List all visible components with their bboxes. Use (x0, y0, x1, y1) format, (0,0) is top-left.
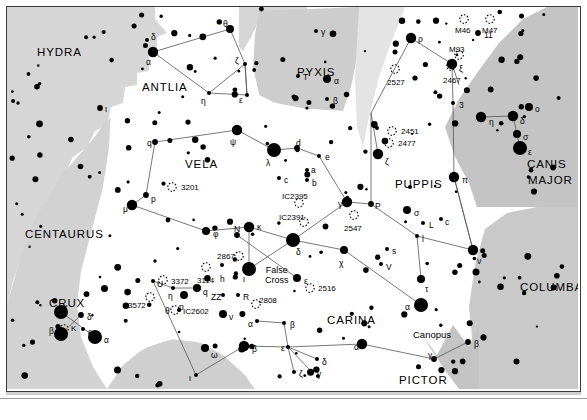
star-marker (148, 47, 158, 57)
star-marker (439, 217, 443, 221)
field-star (160, 15, 163, 18)
field-star (393, 41, 399, 47)
star-label: ζ (385, 158, 389, 167)
field-star (280, 57, 285, 62)
star-marker (508, 111, 518, 121)
star-marker (475, 30, 481, 36)
field-star (393, 49, 398, 54)
star-marker (465, 339, 471, 345)
field-star (147, 303, 152, 308)
star-label: ξ (459, 65, 463, 74)
field-star (98, 171, 101, 174)
star-marker (385, 247, 389, 251)
field-star (68, 137, 74, 143)
field-star (101, 285, 108, 292)
star-marker (417, 275, 425, 283)
constellation-label: PYXIS (297, 67, 335, 79)
field-star (488, 87, 494, 93)
star-label: ν (477, 257, 481, 266)
star-label: V (386, 263, 392, 272)
field-star (295, 352, 298, 355)
star-marker (243, 62, 247, 66)
field-star (176, 247, 179, 250)
deepsky-label: IC2391 (279, 214, 305, 222)
columba-shade (469, 207, 578, 389)
star-label: α (248, 320, 253, 329)
field-star (232, 91, 238, 97)
star-label: φ (213, 230, 219, 239)
field-star (519, 13, 524, 18)
field-star (457, 263, 462, 268)
field-star (482, 253, 487, 258)
star-marker (220, 263, 224, 267)
star-marker (406, 33, 416, 43)
star-label: θ (165, 307, 170, 316)
constellation-label: VELA (185, 159, 218, 171)
field-star (135, 374, 139, 378)
deepsky-label: 3572 (128, 302, 146, 310)
field-star (39, 304, 42, 307)
star-marker (513, 141, 527, 155)
star-marker (476, 112, 486, 122)
field-star (27, 135, 31, 139)
field-star (428, 123, 431, 126)
field-star (194, 70, 197, 73)
field-star (433, 90, 437, 94)
star-marker (193, 284, 201, 292)
star-marker (194, 373, 198, 377)
field-star (114, 264, 121, 271)
field-star (38, 82, 42, 86)
star-label: q (147, 139, 152, 148)
constellation-label: CARINA (327, 315, 376, 327)
deepsky-label: 2547 (344, 225, 362, 233)
field-star (102, 30, 106, 34)
deepsky-marker (391, 65, 399, 73)
star-marker (325, 97, 329, 101)
star-label: μ (123, 205, 128, 214)
star-label: d (296, 139, 301, 148)
field-star (309, 255, 312, 258)
field-star (141, 68, 144, 71)
constellation-label: CENTAURUS (25, 229, 104, 241)
deepsky-label: 2477 (398, 140, 416, 148)
annotation-label: FalseCross (265, 265, 289, 286)
star-marker (207, 91, 211, 95)
star-label: P (375, 202, 381, 211)
star-label: κ (257, 223, 261, 232)
star-label: ε (304, 277, 308, 286)
field-star (187, 151, 190, 154)
star-label: η (489, 118, 494, 127)
star-marker (239, 341, 249, 351)
star-marker (305, 178, 309, 182)
deepsky-label: 2467 (443, 77, 461, 85)
field-star (445, 22, 447, 24)
field-star (514, 358, 520, 364)
field-star (266, 142, 270, 146)
star-label: η (168, 292, 173, 301)
field-star (30, 340, 35, 345)
star-label: q (203, 288, 208, 297)
field-star (435, 308, 438, 311)
star-marker (415, 234, 419, 238)
field-star (499, 121, 504, 126)
star-label: γ (317, 370, 321, 379)
field-star (187, 64, 193, 70)
star-label: β (252, 345, 257, 354)
star-label: L (429, 221, 434, 230)
star-marker (379, 262, 383, 266)
field-star (199, 33, 206, 40)
star-label: h (220, 275, 225, 284)
star-marker (202, 227, 210, 235)
deepsky-label: M47 (482, 27, 498, 35)
field-star (84, 35, 88, 39)
star-marker (414, 298, 428, 312)
star-marker (255, 319, 259, 323)
field-star (401, 311, 407, 317)
field-star (533, 75, 539, 81)
star-label: δ (87, 313, 92, 322)
star-label: c (284, 176, 288, 185)
constellation-label: PUPPIS (395, 179, 443, 191)
field-star (16, 101, 19, 104)
field-star (227, 219, 233, 225)
star-marker (245, 93, 249, 97)
